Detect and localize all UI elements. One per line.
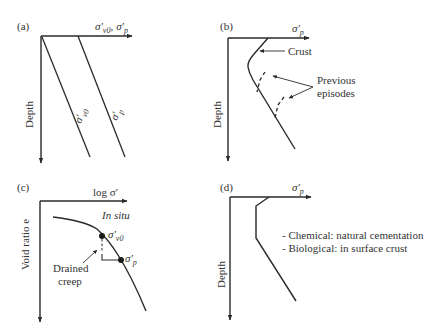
- note-biological: - Biological: in surface crust: [282, 242, 407, 254]
- previous-label-line2: episodes: [317, 87, 355, 99]
- drained-label-line2: creep: [58, 275, 82, 287]
- panel-a-label: (a): [17, 20, 30, 33]
- panel-a-x-axis-label: σ′v0,σ′p: [95, 20, 128, 35]
- panel-a: (a) σ′v0,σ′p Depth σ′v0 σ′p: [17, 20, 132, 163]
- previous-arrow-1: [273, 76, 313, 87]
- panel-b-y-axis-label: Depth: [211, 101, 223, 128]
- sigma-p-label: σ′p: [125, 252, 137, 267]
- in-situ-label: In situ: [101, 209, 130, 221]
- creep-path: [102, 254, 118, 260]
- panel-a-y-axis-label: Depth: [23, 101, 35, 128]
- panel-c-x-axis-label: log σ′: [93, 186, 118, 198]
- previous-label-line1: Previous: [317, 74, 356, 86]
- panel-b-x-axis-label: σ′p: [292, 22, 304, 37]
- panel-d-y-axis-label: Depth: [215, 261, 227, 288]
- previous-episode-2: [275, 97, 284, 118]
- sigma-v0-line-label: σ′v0: [72, 106, 91, 126]
- sigma-v0-point: [99, 233, 105, 239]
- panel-d-x-axis-label: σ′p: [292, 181, 304, 196]
- sigma-v0-label: σ′v0: [108, 228, 123, 243]
- panel-d-label: (d): [220, 181, 233, 194]
- panel-c-label: (c): [17, 181, 30, 194]
- note-chemical: - Chemical: natural cementation: [282, 229, 424, 241]
- panel-c-y-axis-label: Void ratio e: [19, 219, 31, 270]
- crust-label: Crust: [288, 45, 312, 57]
- sigma-p-line: [78, 36, 125, 157]
- panel-c: (c) log σ′ Void ratio e In situ σ′v0 σ′p…: [17, 181, 146, 322]
- panel-d: (d) σ′p Depth - Chemical: natural cement…: [215, 181, 424, 320]
- figure-canvas: (a) σ′v0,σ′p Depth σ′v0 σ′p (b) σ′p Dept…: [0, 0, 448, 333]
- sigma-p-point: [118, 257, 124, 263]
- panel-b-label: (b): [220, 20, 233, 33]
- panel-b: (b) σ′p Depth Crust Previous episodes: [211, 20, 356, 161]
- sigma-v0-line: [42, 37, 90, 157]
- drained-label-line1: Drained: [53, 262, 89, 274]
- previous-arrow-2: [289, 87, 313, 98]
